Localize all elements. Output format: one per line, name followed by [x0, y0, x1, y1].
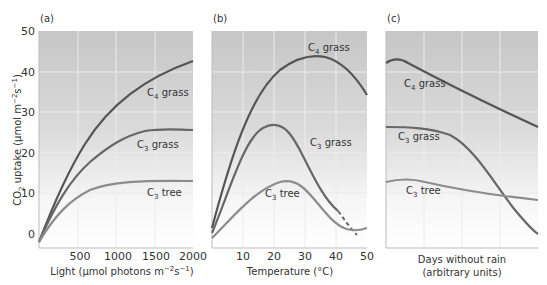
panel-a-x-tick-labels: 500 1000 1500 2000 [70, 250, 208, 263]
panel-b-x-tick-20: 20 [267, 250, 281, 263]
figure-canvas: (a) C4 grass C3 grass C3 tree 50 40 30 2… [0, 0, 547, 285]
panel-b-x-tick-30: 30 [298, 250, 312, 263]
panel-b-x-tick-labels: 10 20 30 40 50 [236, 250, 374, 263]
panel-a-x-tick-2000: 2000 [179, 250, 207, 263]
panel-c: (c) C4 grass C3 grass C3 tree Days witho… [386, 13, 538, 278]
panel-a-label: (a) [40, 13, 54, 24]
y-tick-40: 40 [21, 66, 35, 79]
panel-c-label: (c) [387, 13, 400, 24]
panel-b-x-tick-40: 40 [329, 250, 343, 263]
panel-a-x-tick-1000: 1000 [104, 250, 132, 263]
panel-c-x-axis-label-line1: Days without rain [418, 254, 506, 265]
y-tick-20: 20 [21, 147, 35, 160]
panel-c-x-axis-label-line2: (arbitrary units) [422, 267, 501, 278]
panel-a-x-axis-label: Light (µmol photons m−2s−1) [50, 265, 193, 277]
panel-a-x-tick-500: 500 [70, 250, 91, 263]
panel-b-label: (b) [213, 13, 227, 24]
panel-a-x-tick-1500: 1500 [142, 250, 170, 263]
panel-b-x-axis-label: Temperature (°C) [246, 266, 333, 277]
panel-b-x-tick-10: 10 [236, 250, 250, 263]
y-tick-50: 50 [21, 25, 35, 38]
y-tick-labels: 50 40 30 20 10 0 [21, 25, 35, 241]
y-tick-0: 0 [28, 228, 35, 241]
panel-a: (a) C4 grass C3 grass C3 tree 50 40 30 2… [11, 13, 207, 277]
y-tick-30: 30 [21, 106, 35, 119]
panel-b: (b) C4 grass C3 grass C3 tree 10 20 30 4… [212, 13, 374, 277]
panel-b-x-tick-50: 50 [360, 250, 374, 263]
